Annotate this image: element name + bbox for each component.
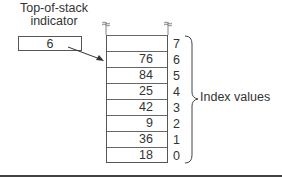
break-mark-icon — [102, 22, 172, 35]
diagram-overlay — [0, 0, 282, 178]
bottom-rule — [0, 175, 282, 177]
curly-brace-icon — [185, 36, 198, 163]
pointer-arrow-icon — [68, 47, 104, 61]
